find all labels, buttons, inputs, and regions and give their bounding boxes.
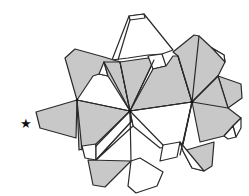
left-petal [36, 100, 77, 138]
bottom-center-petal [128, 158, 163, 193]
star-marker-icon: ★ [20, 117, 32, 130]
left-box-front [82, 144, 96, 160]
top-peak-face [112, 14, 173, 60]
vertex-left [76, 99, 78, 101]
vertex-right [190, 100, 193, 103]
bottom-left-petal [88, 160, 131, 187]
polyhedron-diagram [0, 0, 249, 196]
vertex-center [128, 109, 131, 112]
